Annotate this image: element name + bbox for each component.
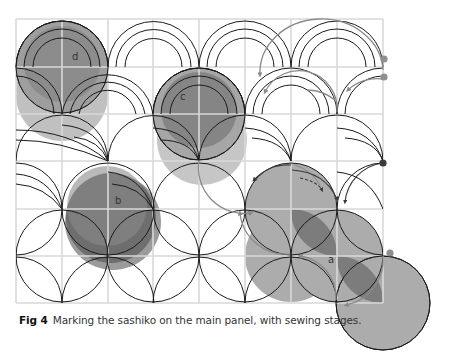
figure-caption: Fig 4Marking the sashiko on the main pan… [19, 314, 361, 326]
start-dot-gray-2 [380, 73, 387, 80]
stage-label-b: b [115, 195, 121, 206]
stage-c-shading [153, 68, 247, 185]
figure-number: Fig 4 [19, 314, 48, 326]
arrow-gray-2 [348, 79, 383, 90]
start-dot-gray-3 [386, 249, 393, 256]
stage-label-c: c [180, 91, 186, 102]
stage-label-a: a [328, 254, 334, 265]
figure-caption-text: Marking the sashiko on the main panel, w… [53, 314, 362, 326]
sashiko-diagram: d c b a [0, 0, 450, 353]
stage-label-d: d [72, 51, 78, 62]
start-dot-dark [379, 159, 386, 166]
start-dot-gray-1 [380, 55, 387, 62]
